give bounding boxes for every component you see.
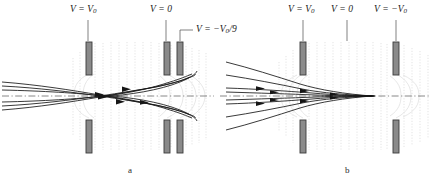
panel-a-caption: a — [128, 165, 132, 175]
panel-a-left-electrode-label: V = V0 — [70, 4, 97, 15]
panel-b-left-electrode-top — [300, 42, 306, 75]
panel-a-left-electrode-top — [86, 42, 92, 75]
panel-b-middle-electrode-label: V = 0 — [331, 4, 353, 14]
panel-a-right-electrode-bottom — [177, 120, 183, 153]
panel-a-middle-electrode-top — [164, 42, 170, 75]
panel-b-right-electrode-top — [393, 42, 399, 75]
panel-b-left-electrode-bottom — [300, 120, 306, 153]
panel-b-right-electrode-label: V = −V0 — [374, 4, 407, 15]
panel-b-caption: b — [345, 165, 350, 175]
panel-a-middle-electrode-label: V = 0 — [150, 4, 172, 14]
panel-a-right-electrode-top — [177, 42, 183, 75]
panel-b-left-electrode-label: V = V0 — [288, 4, 315, 15]
panel-a-right-electrode-label: V = −V0/9 — [196, 24, 237, 35]
panel-a-left-electrode-bottom — [86, 120, 92, 153]
panel-b-right-electrode-bottom — [393, 120, 399, 153]
panel-a-middle-electrode-bottom — [164, 120, 170, 153]
